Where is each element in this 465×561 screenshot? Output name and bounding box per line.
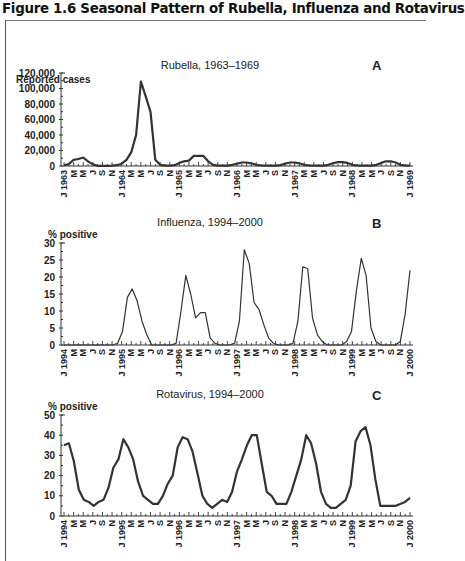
y-tick-label: 60,000	[24, 114, 55, 125]
panel-title: Influenza, 1994–2000	[157, 216, 263, 228]
x-month-label: M	[69, 520, 79, 528]
x-year-label: J 1997	[232, 349, 242, 377]
x-month-label: N	[280, 170, 290, 177]
x-year-label: J 1994	[59, 520, 69, 548]
x-month-label: M	[184, 170, 194, 178]
x-month-label: N	[395, 520, 405, 527]
x-month-label: M	[194, 520, 204, 528]
x-month-label: J	[203, 349, 213, 354]
x-month-label: M	[184, 520, 194, 528]
x-month-label: S	[155, 170, 165, 176]
x-month-label: M	[357, 520, 367, 528]
x-month-label: S	[270, 349, 280, 355]
x-year-label: J 1996	[174, 520, 184, 548]
x-month-label: M	[194, 349, 204, 357]
y-tick-label: 40,000	[24, 130, 55, 141]
x-month-label: S	[328, 349, 338, 355]
x-month-label: M	[126, 520, 136, 528]
y-tick-label: 20	[44, 272, 56, 283]
x-month-label: J	[146, 520, 156, 525]
x-month-label: J	[261, 520, 271, 525]
x-month-label: M	[69, 349, 79, 357]
x-month-label: M	[126, 349, 136, 357]
chart-panel-a: Rubella, 1963–1969AReported cases020,000…	[16, 58, 415, 198]
x-month-label: M	[194, 170, 204, 178]
x-year-label: J 2000	[405, 520, 415, 548]
x-month-label: N	[222, 349, 232, 356]
y-tick-label: 100,000	[19, 83, 56, 94]
x-month-label: N	[395, 349, 405, 356]
x-year-label: J 1996	[174, 349, 184, 377]
y-axis-label: % positive	[48, 229, 98, 240]
x-month-label: M	[126, 170, 136, 178]
panel-title: Rubella, 1963–1969	[161, 59, 259, 71]
x-month-label: S	[328, 170, 338, 176]
panel-letter: C	[372, 388, 382, 403]
y-tick-label: 5	[49, 323, 55, 334]
x-month-label: N	[107, 170, 117, 177]
x-month-label: M	[299, 349, 309, 357]
series-line	[64, 82, 410, 166]
x-month-label: M	[299, 170, 309, 178]
x-month-label: M	[367, 349, 377, 357]
x-month-label: M	[242, 349, 252, 357]
x-month-label: S	[213, 520, 223, 526]
x-month-label: M	[251, 520, 261, 528]
y-tick-label: 0	[49, 511, 55, 522]
x-month-label: M	[136, 170, 146, 178]
y-axis-label: % positive	[48, 401, 98, 412]
x-month-label: J	[261, 349, 271, 354]
x-month-label: N	[222, 170, 232, 177]
x-month-label: S	[270, 170, 280, 176]
x-year-label: J 2000	[405, 349, 415, 377]
series-line	[64, 427, 410, 508]
x-month-label: M	[251, 349, 261, 357]
x-month-label: N	[338, 170, 348, 177]
x-year-label: J 1968	[347, 170, 357, 198]
x-month-label: J	[376, 349, 386, 354]
x-month-label: J	[319, 520, 329, 525]
chart-panel-c: Rotavirus, 1994–2000C% positive010203040…	[44, 388, 415, 548]
x-month-label: J	[88, 170, 98, 175]
panel-title: Rotavirus, 1994–2000	[156, 388, 264, 400]
x-month-label: N	[165, 520, 175, 527]
x-month-label: J	[146, 170, 156, 175]
x-month-label: M	[69, 170, 79, 178]
x-month-label: N	[395, 170, 405, 177]
x-month-label: S	[328, 520, 338, 526]
x-month-label: M	[184, 349, 194, 357]
x-year-label: J 1965	[174, 170, 184, 198]
y-tick-label: 80,000	[24, 99, 55, 110]
x-month-label: M	[367, 520, 377, 528]
x-month-label: N	[280, 520, 290, 527]
x-month-label: J	[319, 170, 329, 175]
x-month-label: S	[270, 520, 280, 526]
chart-panel-b: Influenza, 1994–2000B% positive051015202…	[44, 216, 415, 377]
x-month-label: M	[357, 170, 367, 178]
x-month-label: N	[107, 520, 117, 527]
y-tick-label: 30	[44, 238, 56, 249]
x-month-label: M	[136, 520, 146, 528]
x-year-label: J 1999	[347, 349, 357, 377]
x-month-label: N	[165, 349, 175, 356]
x-year-label: J 1998	[290, 520, 300, 548]
x-year-label: J 1994	[59, 349, 69, 377]
y-tick-label: 25	[44, 255, 56, 266]
x-month-label: M	[309, 520, 319, 528]
x-month-label: S	[155, 349, 165, 355]
x-month-label: S	[155, 520, 165, 526]
panel-letter: B	[372, 216, 381, 231]
x-month-label: J	[319, 349, 329, 354]
panel-letter: A	[372, 58, 382, 73]
x-month-label: S	[97, 170, 107, 176]
x-month-label: J	[203, 170, 213, 175]
x-month-label: M	[367, 170, 377, 178]
y-tick-label: 10	[44, 490, 56, 501]
x-month-label: J	[203, 520, 213, 525]
x-year-label: J 1997	[232, 520, 242, 548]
x-month-label: M	[78, 520, 88, 528]
x-month-label: N	[222, 520, 232, 527]
x-month-label: S	[213, 170, 223, 176]
x-month-label: S	[97, 349, 107, 355]
x-month-label: J	[376, 520, 386, 525]
